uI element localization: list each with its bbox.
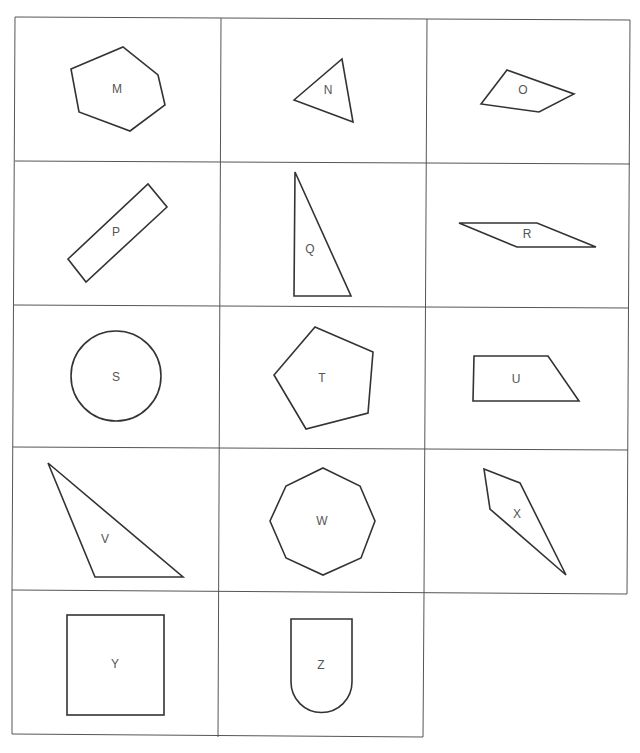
shape-label: P [112,225,120,239]
cell-t: T [274,327,373,429]
shape-label: R [523,227,532,241]
triangle-shape [48,463,183,577]
cell-z: Z [291,619,352,713]
shapes-diagram: M N O P Q R S T U V [0,0,640,753]
shape-label: Z [317,658,324,672]
shape-label: Q [305,242,314,256]
cell-x: X [484,469,566,575]
cell-s: S [71,331,161,421]
shape-label: V [101,532,109,546]
shape-label: M [112,82,122,96]
cell-q: Q [294,172,351,296]
shape-label: O [518,83,527,97]
cell-r: R [459,223,596,247]
cell-o: O [481,70,574,112]
shape-label: U [512,372,521,386]
right-triangle-shape [294,172,351,296]
shape-label: Y [111,657,119,671]
shape-label: T [318,371,326,385]
cell-w: W [270,468,375,575]
kite-shape [484,469,566,575]
shape-label: N [324,83,333,97]
cell-p: P [68,184,167,282]
cell-y: Y [67,615,164,715]
shape-label: W [316,514,328,528]
cell-m: M [71,47,165,131]
cell-n: N [294,59,353,122]
cell-v: V [48,463,183,577]
trapezoid-shape [473,356,579,401]
shape-label: S [112,370,120,384]
shape-label: X [513,507,521,521]
cell-u: U [473,356,579,401]
